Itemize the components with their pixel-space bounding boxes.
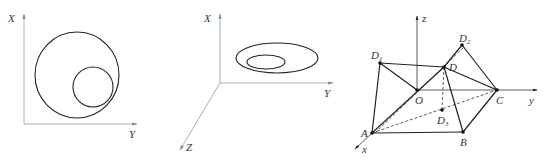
edge-AB (372, 132, 463, 133)
point-B (461, 130, 465, 134)
outer-ellipse (236, 43, 318, 73)
y-axis-label: Y (324, 87, 332, 99)
label-D: D (448, 61, 457, 73)
dashed-DD3 (442, 67, 444, 110)
label-D3: D3 (436, 114, 449, 128)
edge-BC (463, 90, 497, 132)
figure: X Y X Y Z z y x (0, 0, 547, 166)
z-axis (180, 83, 220, 150)
edge-D1O (380, 63, 417, 90)
panel-2: X Y Z (180, 12, 333, 153)
small-circle (73, 67, 113, 107)
point-D (442, 65, 446, 69)
label-O: O (415, 94, 423, 106)
panel-3: z y x O A B C D D1 D2 D3 (355, 12, 537, 155)
point-O (415, 88, 419, 92)
edge-AD1 (372, 63, 380, 133)
dashed-AC (372, 90, 497, 133)
point-D3 (440, 108, 444, 112)
label-C: C (496, 94, 504, 106)
label-D2: D2 (458, 32, 471, 46)
edge-D2C (462, 45, 497, 90)
z-axis-label: z (421, 12, 427, 24)
label-D1: D1 (370, 49, 382, 63)
point-C (495, 88, 499, 92)
x-axis-label: x (361, 143, 367, 155)
y-axis-label: y (528, 94, 534, 106)
panel-1: X Y (7, 12, 137, 140)
label-B: B (460, 136, 467, 148)
inner-ellipse (247, 55, 285, 69)
z-axis-label: Z (186, 141, 193, 153)
x-axis-label: X (203, 12, 212, 24)
point-A (370, 131, 374, 135)
edge-AD (372, 67, 444, 133)
x-axis-label: X (7, 12, 16, 24)
y-axis-label: Y (129, 128, 137, 140)
edge-D1D (380, 63, 444, 67)
label-A: A (360, 127, 368, 139)
